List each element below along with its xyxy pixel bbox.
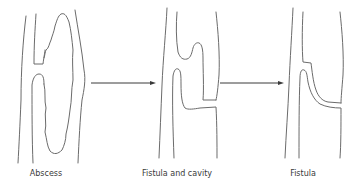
abscess-to-fistula-diagram: Abscess Fistula and cavity Fistula xyxy=(0,0,357,191)
fistula-illustration xyxy=(285,8,343,158)
abscess-illustration xyxy=(18,10,85,163)
fistula-and-cavity-illustration xyxy=(159,8,219,158)
label-abscess: Abscess xyxy=(30,169,62,178)
label-fistula: Fistula xyxy=(290,169,316,178)
label-fistula-and-cavity: Fistula and cavity xyxy=(142,169,212,178)
arrow-2 xyxy=(220,81,284,85)
arrow-1 xyxy=(91,81,156,85)
diagram-drawing xyxy=(0,0,357,191)
